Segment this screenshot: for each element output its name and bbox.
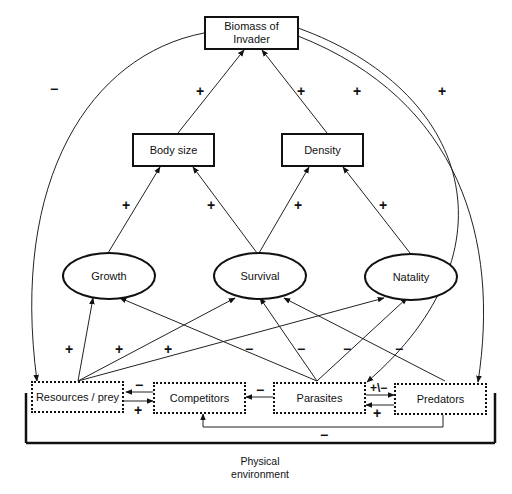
- edge-density-biomass: [262, 50, 327, 133]
- node-label: Body size: [150, 144, 198, 157]
- invader-biomass-diagram: Biomass of Invader Body size Density Gro…: [0, 0, 512, 494]
- sign-parasites-survival: −: [297, 342, 305, 356]
- physical-environment-label: Physical environment: [220, 455, 300, 481]
- sign-resources-natality: +: [164, 342, 172, 356]
- sign-resources-competitors: +: [134, 403, 142, 417]
- sign-natality-density: +: [379, 198, 387, 212]
- sign-parasites-natality: −: [395, 342, 403, 356]
- node-natality: Natality: [364, 253, 458, 301]
- sign-survival-density: +: [294, 198, 302, 212]
- node-label: Natality: [393, 271, 430, 283]
- node-body-size: Body size: [132, 133, 215, 167]
- sign-parasites-competitors: −: [256, 383, 264, 397]
- edge-bodysize-biomass: [178, 50, 244, 133]
- sign-biomass-parasites: +: [353, 84, 361, 98]
- env-label-line: Physical: [220, 455, 300, 468]
- node-label: Resources / prey: [36, 391, 119, 403]
- edge-resources-natality: [78, 298, 384, 381]
- sign-bodysize-biomass: +: [196, 84, 204, 98]
- node-growth: Growth: [62, 252, 156, 300]
- diagram-connectors: [0, 0, 512, 494]
- sign-predators-competitors: −: [320, 428, 328, 442]
- node-survival: Survival: [213, 252, 307, 300]
- node-label: Biomass of: [224, 20, 278, 33]
- edge-biomass-predators: [298, 36, 484, 382]
- edge-survival-bodysize: [193, 167, 257, 253]
- edge-growth-bodysize: [108, 167, 160, 253]
- edge-natality-density: [343, 167, 410, 253]
- sign-growth-bodysize: +: [122, 198, 130, 212]
- node-label: Invader: [233, 33, 270, 46]
- sign-resources-growth: +: [65, 342, 73, 356]
- node-resources-prey: Resources / prey: [31, 381, 124, 413]
- node-competitors: Competitors: [153, 382, 246, 414]
- sign-biomass-predators: +: [438, 84, 446, 98]
- sign-density-biomass: +: [297, 84, 305, 98]
- sign-parasites-predators: +\−: [370, 381, 387, 395]
- sign-survival-bodysize: +: [207, 198, 215, 212]
- node-predators: Predators: [394, 383, 487, 415]
- node-label: Parasites: [297, 392, 343, 404]
- sign-predators-survival: −: [343, 342, 351, 356]
- node-label: Density: [304, 144, 341, 157]
- node-density: Density: [281, 133, 364, 167]
- node-parasites: Parasites: [273, 382, 366, 414]
- sign-biomass-resources: −: [50, 82, 58, 96]
- node-biomass-of-invader: Biomass of Invader: [204, 16, 299, 50]
- sign-resources-survival: +: [115, 342, 123, 356]
- node-label: Predators: [417, 393, 465, 405]
- sign-parasites-growth: −: [245, 342, 253, 356]
- sign-competitors-resources: −: [135, 378, 143, 392]
- edge-resources-growth: [78, 298, 93, 381]
- node-label: Growth: [91, 270, 126, 282]
- edge-predators-competitors: [203, 414, 443, 427]
- edge-resources-survival: [78, 298, 235, 381]
- edge-parasites-natality: [317, 298, 407, 381]
- env-label-line: environment: [220, 468, 300, 481]
- node-label: Survival: [240, 270, 279, 282]
- sign-predators-parasites: +: [373, 406, 381, 420]
- node-label: Competitors: [170, 392, 229, 404]
- edge-parasites-growth: [120, 298, 317, 381]
